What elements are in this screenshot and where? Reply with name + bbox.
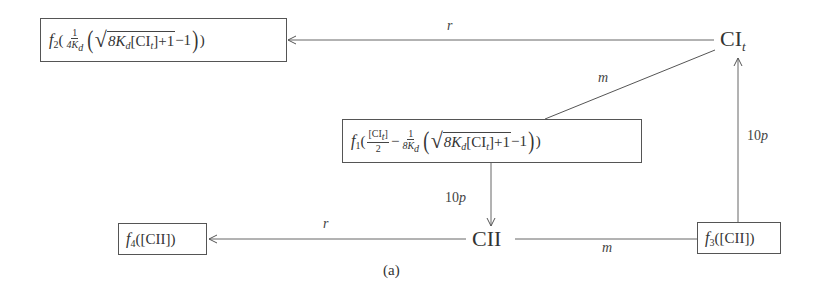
f3-name: f3 — [705, 229, 714, 248]
f4-argument: ([CII]) — [135, 231, 175, 248]
edge-cit-to-f1 — [545, 50, 715, 119]
f2-close-paren: ) — [200, 32, 205, 49]
f2-big-open-paren: ( — [87, 27, 93, 53]
f1-minus: − — [391, 133, 399, 150]
f1-fraction-2: 1 8Kd — [401, 128, 420, 154]
f2-minus-one: −1 — [175, 32, 191, 49]
figure-caption: (a) — [383, 262, 400, 279]
edge-label-r-top: r — [447, 18, 452, 34]
node-cii: CII — [472, 226, 501, 252]
f2-open-paren: ( — [58, 32, 63, 49]
edge-label-m-bottom: m — [602, 240, 612, 256]
f2-box: f2 ( 1 4Kd ( √ 8Kd[CIt]+1 −1 ) ) — [40, 18, 287, 62]
f1-sqrt: √ 8Kd[CIt]+1 — [431, 130, 511, 152]
f1-name: f1 — [351, 132, 360, 151]
edge-label-r-bottom: r — [323, 216, 328, 232]
f1-open-paren: ( — [360, 133, 365, 150]
edge-label-10p-left: 10p — [445, 190, 466, 206]
f2-sqrt: √ 8Kd[CIt]+1 — [95, 29, 175, 51]
f1-fraction-1: [CIt] 2 — [367, 128, 388, 154]
f2-fraction: 1 4Kd — [65, 27, 84, 53]
f1-minus-one: −1 — [511, 133, 527, 150]
f1-big-close-paren: ) — [528, 128, 534, 154]
f3-box: f3 ([CII]) — [697, 222, 781, 254]
f1-close-paren: ) — [536, 133, 541, 150]
f4-box: f4 ([CII]) — [118, 223, 207, 255]
f2-big-close-paren: ) — [192, 27, 198, 53]
f3-argument: ([CII]) — [714, 230, 754, 247]
edge-label-10p-right: 10p — [747, 128, 768, 144]
node-cit: CIt — [720, 26, 746, 55]
edge-label-m-diagonal: m — [598, 70, 608, 86]
f1-big-open-paren: ( — [423, 128, 429, 154]
f1-box: f1 ( [CIt] 2 − 1 8Kd ( √ 8Kd[CIt]+1 −1 )… — [342, 119, 642, 163]
f4-name: f4 — [126, 230, 135, 249]
f2-name: f2 — [49, 31, 58, 50]
